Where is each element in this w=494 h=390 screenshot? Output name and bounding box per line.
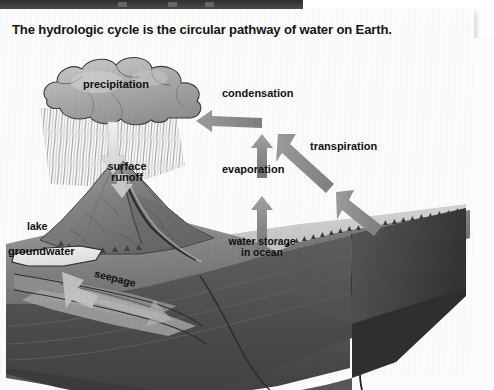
label-groundwater: groundwater (8, 246, 75, 257)
label-surface-runoff-line2: runoff (100, 172, 154, 183)
header-bar-mark-2 (168, 2, 177, 7)
header-bar-mark-1 (118, 2, 127, 7)
label-water-storage-in-ocean: water storage in ocean (221, 237, 303, 258)
scanned-page: The hydrologic cycle is the circular pat… (0, 0, 494, 390)
label-lake: lake (27, 221, 47, 232)
label-water-storage-line1: water storage (221, 237, 303, 248)
page-header-bar (0, 0, 303, 9)
label-surface-runoff: surface runoff (100, 161, 154, 183)
content-sheet: The hydrologic cycle is the circular pat… (0, 9, 474, 380)
header-bar-mark-3 (205, 2, 214, 7)
label-water-storage-line2: in ocean (221, 248, 303, 259)
label-precipitation: precipitation (83, 79, 149, 90)
label-condensation: condensation (222, 88, 294, 99)
figure-title: The hydrologic cycle is the circular pat… (12, 22, 392, 37)
label-evaporation: evaporation (222, 164, 284, 175)
label-transpiration: transpiration (310, 141, 377, 152)
